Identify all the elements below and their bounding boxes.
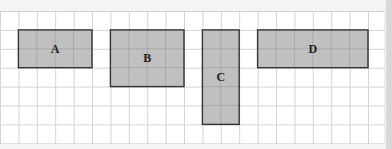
right-border (386, 0, 392, 149)
rectangle-label: A (51, 42, 60, 56)
rectangle-label: D (308, 42, 317, 56)
rectangle-label: C (216, 70, 225, 84)
grid-diagram: ABCD (0, 11, 385, 144)
rectangle-label: B (143, 51, 151, 65)
rectangle-a: A (18, 30, 92, 68)
rectangle-b: B (110, 30, 184, 87)
diagram-frame: ABCD (0, 0, 392, 149)
rectangle-d: D (258, 30, 368, 68)
rectangle-c: C (202, 30, 239, 125)
grid-area: ABCD (0, 11, 385, 144)
